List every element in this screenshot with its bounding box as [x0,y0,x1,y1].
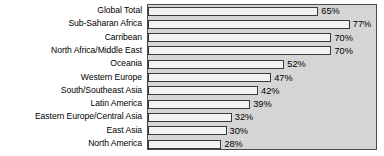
bar [148,7,318,16]
bar-value-label: 47% [271,72,292,85]
bar-row: 42% [148,85,376,98]
bar-value-label: 52% [284,58,305,71]
bar-value-label: 65% [318,5,339,18]
bar [148,100,250,109]
bar [148,126,227,135]
bar-row: 28% [148,138,376,151]
bar-row: 30% [148,125,376,138]
category-label: Western Europe [81,71,142,84]
bar [148,60,284,69]
category-label: Latin America [91,97,142,110]
bar-row: 39% [148,98,376,111]
bar-row: 32% [148,111,376,124]
category-label: East Asia [107,124,142,137]
bar-row: 52% [148,58,376,71]
category-label: South/Southeast Asia [61,84,142,97]
category-label: Carribean [105,31,142,44]
bar-row: 77% [148,18,376,31]
plot-inner: 65%77%70%70%52%47%42%39%32%30%28% [148,5,376,149]
category-axis-labels: Global TotalSub-Saharan AfricaCarribeanN… [0,4,145,150]
plot-area: 65%77%70%70%52%47%42%39%32%30%28% [147,4,377,150]
bar-value-label: 39% [250,98,271,111]
bar-value-label: 42% [258,85,279,98]
bar [148,140,221,149]
bar [148,46,331,55]
bar-value-label: 77% [350,18,371,31]
bar [148,33,331,42]
bar [148,73,271,82]
bar-value-label: 30% [227,125,248,138]
category-label: Global Total [97,4,142,17]
horizontal-bar-chart: Global TotalSub-Saharan AfricaCarribeanN… [0,0,384,156]
bar-row: 70% [148,32,376,45]
category-label: Eastern Europe/Central Asia [35,110,142,123]
bar-row: 47% [148,72,376,85]
bar-row: 70% [148,45,376,58]
bar-value-label: 32% [232,111,253,124]
category-label: Oceania [110,57,142,70]
category-label: North Africa/Middle East [51,44,142,57]
category-label: Sub-Saharan Africa [68,17,142,30]
bar [148,20,350,29]
bar [148,113,232,122]
bar-value-label: 28% [221,138,242,151]
category-label: North America [88,137,142,150]
bar-value-label: 70% [331,32,352,45]
bar-value-label: 70% [331,45,352,58]
bar [148,86,258,95]
bar-row: 65% [148,5,376,18]
